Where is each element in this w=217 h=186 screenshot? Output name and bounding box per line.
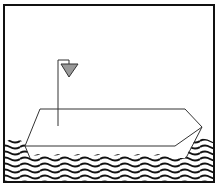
boat-illustration xyxy=(0,0,217,186)
